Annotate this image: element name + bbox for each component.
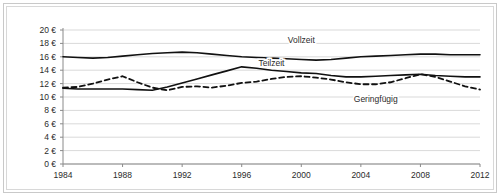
series-label-geringf-gig: Geringfügig [354,94,398,104]
y-axis-tick-label: 14 € [39,65,56,75]
chart-container: 0 €2 €4 €6 €8 €10 €12 €14 €16 €18 €20 €1… [0,0,500,196]
x-axis-tick-label: 2008 [411,170,430,180]
y-axis-tick-label: 18 € [39,38,56,48]
series-line-geringf-gig [63,74,480,90]
y-axis-tick-label: 0 € [44,159,56,169]
series-label-teilzeit: Teilzeit [259,58,286,68]
series-label-vollzeit: Vollzeit [288,35,316,45]
x-axis-tick-label: 2012 [471,170,490,180]
y-axis-tick-label: 16 € [39,52,56,62]
y-axis-tick-label: 4 € [44,132,56,142]
x-axis-tick-label: 1988 [113,170,132,180]
x-axis-tick-label: 2004 [351,170,370,180]
y-axis-tick-label: 10 € [39,92,56,102]
x-axis-tick-label: 1992 [173,170,192,180]
y-axis-tick-label: 2 € [44,146,56,156]
y-axis-tick-label: 8 € [44,105,56,115]
y-axis-tick-label: 20 € [39,25,56,35]
line-chart: 0 €2 €4 €6 €8 €10 €12 €14 €16 €18 €20 €1… [0,0,500,196]
x-axis-tick-label: 1984 [54,170,73,180]
x-axis-tick-label: 1996 [232,170,251,180]
y-axis-tick-label: 6 € [44,119,56,129]
y-axis-tick-label: 12 € [39,79,56,89]
x-axis-tick-label: 2000 [292,170,311,180]
